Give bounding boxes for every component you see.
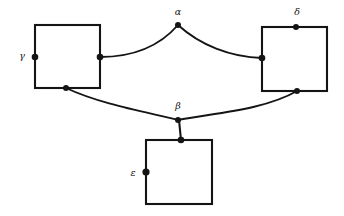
bottom-square-top-node [178,137,185,144]
label-beta: β [174,100,181,111]
labels-group: α β γ δ ε [19,6,300,178]
arc-alpha-to-right-square [178,25,262,58]
right-square-left-node [259,55,266,62]
vertices-group [32,22,300,176]
left-square-bottom-node [63,85,69,91]
graph-diagram-figure: α β γ δ ε [0,0,344,216]
alpha-node [175,22,181,28]
label-delta: δ [294,6,300,17]
gamma-node [32,54,39,61]
label-gamma: γ [19,50,25,61]
label-epsilon: ε [130,167,135,178]
epsilon-node [142,168,149,175]
arc-left-square-to-beta [66,88,178,120]
arc-left-square-to-alpha [100,25,178,57]
left-square-right-node [97,54,104,61]
diagram-canvas: α β γ δ ε [0,0,344,216]
bottom-square [146,140,212,204]
beta-node [175,117,181,123]
right-square-bottom-node [294,88,300,94]
right-square [262,27,327,91]
arc-beta-to-right-square [178,91,297,120]
left-square [35,25,100,88]
label-alpha: α [175,6,182,17]
delta-node [293,24,299,30]
squares-group [35,25,327,204]
